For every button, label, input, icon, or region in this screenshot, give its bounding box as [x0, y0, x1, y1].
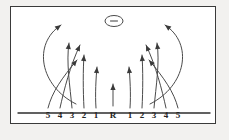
- tick-label-1: 4: [58, 110, 63, 120]
- arrow-layer: [43, 23, 182, 108]
- arrow-left-1: [94, 67, 100, 108]
- arrow-center-R: [110, 84, 115, 106]
- tick-label-10: 5: [176, 110, 181, 120]
- arrow-right-3-head: [154, 43, 160, 50]
- arrow-right-4-head: [144, 44, 151, 52]
- oval-marker-layer: [105, 16, 123, 27]
- arrow-left-4-head: [75, 44, 82, 52]
- tick-label-5: R: [110, 110, 117, 120]
- tick-label-0: 5: [46, 110, 51, 120]
- tick-label-4: 1: [94, 110, 99, 120]
- diagram-canvas: 54321R12345: [0, 0, 229, 140]
- arrow-right-1-head: [126, 67, 132, 73]
- arrow-left-5: [48, 58, 79, 108]
- arrow-right-2-path: [142, 55, 143, 108]
- arrow-sweep-left: [43, 23, 76, 104]
- tick-label-2: 3: [70, 110, 75, 120]
- arrow-sweep-right: [150, 23, 183, 104]
- arrow-sweep-right-path: [150, 25, 183, 104]
- arrow-left-2-head: [81, 55, 87, 61]
- arrow-left-1-head: [94, 67, 100, 73]
- arrow-right-1: [126, 67, 132, 108]
- arrow-center-R-head: [110, 84, 115, 90]
- tick-label-8: 3: [152, 110, 157, 120]
- arrow-right-4-path: [146, 45, 166, 108]
- tick-label-6: 1: [128, 110, 133, 120]
- tick-label-7: 2: [140, 110, 145, 120]
- tick-label-9: 4: [164, 110, 169, 120]
- arrow-right-2: [139, 55, 145, 108]
- arrow-right-5: [147, 58, 178, 108]
- arrow-left-2-path: [83, 55, 84, 108]
- arrow-sweep-left-path: [43, 25, 76, 104]
- arrow-right-1-path: [129, 67, 130, 108]
- arrow-right-2-head: [139, 55, 145, 61]
- figure-root: 54321R12345: [0, 0, 229, 140]
- arrow-left-2: [81, 55, 87, 108]
- arrow-left-3-head: [66, 43, 72, 50]
- tick-label-layer: 54321R12345: [46, 110, 181, 120]
- arrow-left-3-path: [68, 43, 72, 108]
- arrow-left-1-path: [96, 67, 97, 108]
- tick-label-3: 2: [82, 110, 87, 120]
- arrow-left-4-path: [60, 45, 80, 108]
